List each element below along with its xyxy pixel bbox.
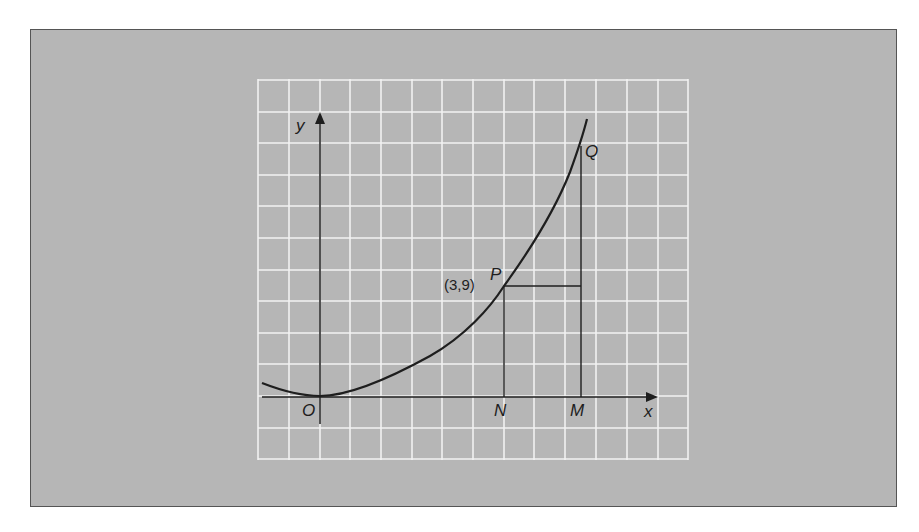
point-p-label: P	[490, 265, 502, 284]
parabola-diagram: y x O N M Q P (3,9)	[0, 0, 919, 532]
x-axis-arrow-icon	[646, 392, 658, 402]
y-axis-label: y	[295, 116, 306, 135]
x-axis-label: x	[643, 402, 653, 421]
point-m-label: M	[570, 401, 585, 420]
parabola-curve	[262, 119, 587, 396]
point-n-label: N	[494, 401, 507, 420]
point-q-label: Q	[585, 142, 598, 161]
y-axis-arrow-icon	[315, 112, 325, 124]
axes	[262, 120, 650, 424]
point-p-coords: (3,9)	[444, 276, 475, 293]
origin-label: O	[302, 401, 315, 420]
grid	[258, 79, 688, 460]
